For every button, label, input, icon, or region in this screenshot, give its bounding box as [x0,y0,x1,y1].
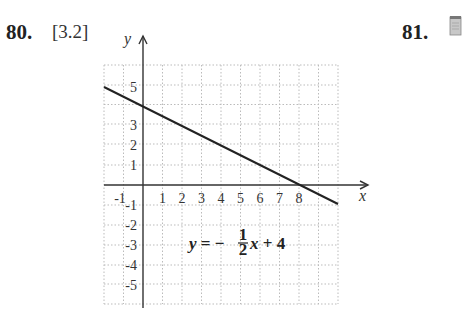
svg-text:2: 2 [239,240,248,259]
svg-text:-3: -3 [125,238,137,253]
svg-text:5: 5 [130,80,137,95]
svg-text:-5: -5 [125,278,137,293]
x-axis-label: x [358,187,366,204]
svg-text:3: 3 [130,118,137,133]
svg-text:4: 4 [218,191,225,206]
svg-text:3: 3 [198,191,205,206]
svg-text:-4: -4 [125,258,137,273]
svg-text:2: 2 [179,191,186,206]
svg-text:y = −: y = − [187,234,224,253]
svg-text:-2: -2 [125,218,137,233]
svg-text:-1: -1 [114,191,126,206]
svg-text:1: 1 [159,191,166,206]
y-axis-label: y [122,30,132,48]
svg-text:6: 6 [257,191,264,206]
line-graph: y x -1 1 2 3 4 5 6 7 8 5 3 2 1 -1 -2 -3 … [0,0,468,312]
axes [104,36,368,308]
svg-text:x + 4: x + 4 [249,234,286,253]
svg-text:5: 5 [237,191,244,206]
svg-text:1: 1 [130,158,137,173]
svg-text:2: 2 [130,138,137,153]
svg-text:8: 8 [296,191,303,206]
svg-text:-1: -1 [125,198,137,213]
y-tick-labels: 5 3 2 1 -1 -2 -3 -4 -5 [125,80,137,293]
svg-text:7: 7 [276,191,283,206]
